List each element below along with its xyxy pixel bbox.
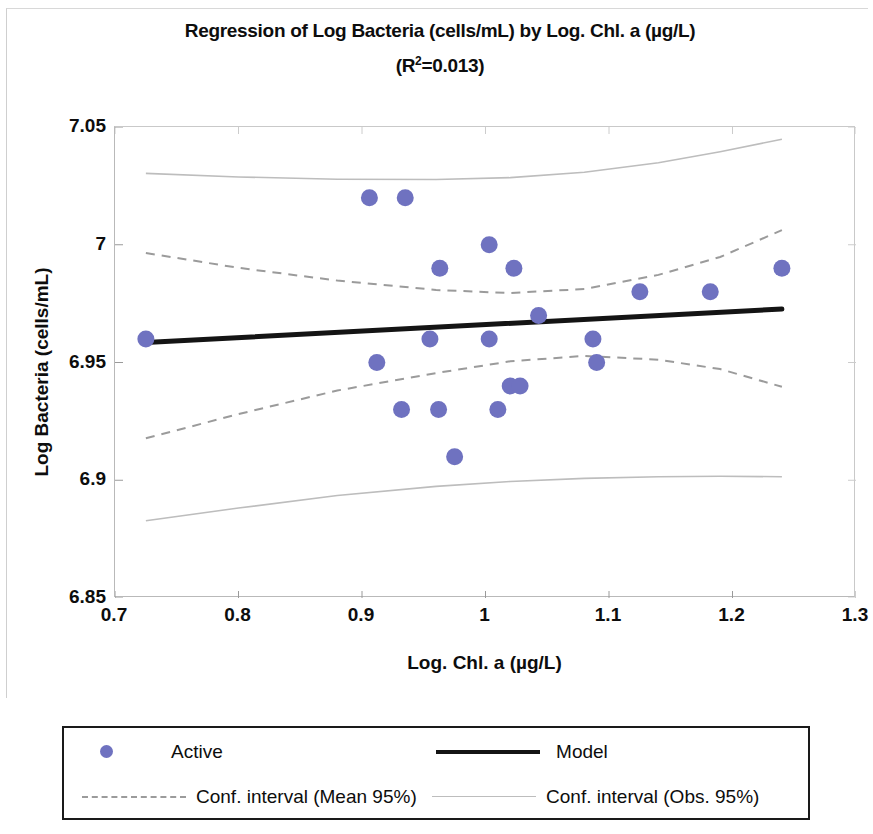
x-axis-title: Log. Chl. a (µg/L) (114, 652, 855, 674)
legend-line-solid-icon (436, 750, 540, 754)
x-axis-ticks: 0.70.80.911.11.21.3 (114, 604, 855, 632)
legend-item-model: Model (436, 728, 808, 775)
legend-marker-dot-icon (100, 745, 113, 758)
x-tick-label: 1.2 (697, 604, 767, 626)
plot-area (114, 126, 855, 597)
chart-title-subtitle: (R2=0.013) (60, 46, 820, 81)
chart-figure: Regression of Log Bacteria (cells/mL) by… (0, 0, 873, 834)
y-axis-title: Log Bacteria (cells/mL) (31, 162, 53, 582)
chart-title-main: Regression of Log Bacteria (cells/mL) by… (185, 20, 696, 41)
x-tick-label: 1.3 (820, 604, 873, 626)
legend-label-active: Active (171, 741, 223, 763)
legend-item-conf-obs: Conf. interval (Obs. 95%) (432, 773, 808, 820)
legend-label-conf-mean: Conf. interval (Mean 95%) (196, 786, 417, 808)
legend-line-dashed-icon (82, 796, 186, 798)
x-tick-label: 1 (450, 604, 520, 626)
x-tick-label: 0.9 (326, 604, 396, 626)
conf-mean-band (146, 230, 782, 438)
model-line (146, 309, 782, 342)
chart-title: Regression of Log Bacteria (cells/mL) by… (60, 16, 820, 81)
x-tick-label: 0.7 (79, 604, 149, 626)
x-tick-label: 0.8 (203, 604, 273, 626)
legend-row: Active Model (64, 728, 808, 775)
conf-obs-band (146, 139, 782, 521)
plot-canvas (115, 127, 856, 598)
legend-item-active: Active (64, 728, 436, 775)
chart-legend: Active Model Conf. interval (Mean 95%) C… (62, 726, 810, 820)
x-tick-label: 1.1 (573, 604, 643, 626)
legend-item-conf-mean: Conf. interval (Mean 95%) (64, 773, 432, 820)
legend-line-thin-icon (432, 796, 536, 797)
y-tick-label: 7.05 (26, 115, 106, 137)
tick-marks (115, 127, 856, 598)
legend-row: Conf. interval (Mean 95%) Conf. interval… (64, 773, 808, 820)
legend-label-conf-obs: Conf. interval (Obs. 95%) (546, 786, 759, 808)
legend-label-model: Model (556, 741, 608, 763)
